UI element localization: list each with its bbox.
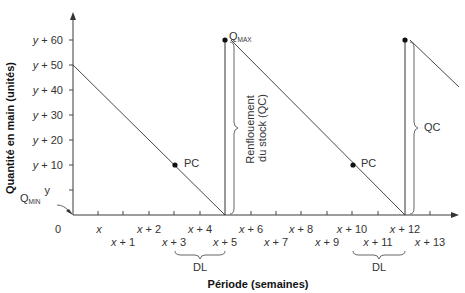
svg-text:y + 40: y + 40: [32, 84, 63, 96]
svg-text:0: 0: [55, 223, 61, 235]
y-axis-arrow-icon: [70, 12, 76, 20]
svg-text:x + 7: x + 7: [263, 236, 288, 248]
svg-text:x + 2: x + 2: [136, 223, 161, 235]
svg-text:y: y: [45, 184, 51, 196]
svg-text:x + 6: x + 6: [238, 223, 263, 235]
qmax-point-2: [402, 37, 407, 42]
svg-text:x + 1: x + 1: [110, 236, 135, 248]
qc-label: QC: [424, 121, 441, 133]
svg-text:y + 30: y + 30: [32, 109, 63, 121]
dl-brace-2: [353, 251, 405, 259]
svg-text:y + 20: y + 20: [32, 134, 63, 146]
pc-label-2: PC: [361, 157, 376, 169]
y-axis-title: Quantité en main (unités): [4, 62, 16, 194]
pc-point-1: [172, 162, 177, 167]
svg-text:x + 13: x + 13: [414, 236, 445, 248]
svg-text:x: x: [95, 223, 102, 235]
dl-label-1: DL: [193, 261, 207, 273]
svg-text:x + 10: x + 10: [336, 223, 367, 235]
qmax-label: QMAX: [229, 30, 252, 43]
svg-text:x + 12: x + 12: [389, 223, 420, 235]
replenish-label: Renflouement du stock (QC): [244, 92, 268, 164]
svg-text:x + 8: x + 8: [288, 223, 313, 235]
svg-text:x + 5: x + 5: [212, 236, 237, 248]
inventory-series-line: [73, 65, 225, 215]
qc-brace-2: [410, 42, 418, 214]
svg-text:y + 60: y + 60: [32, 34, 63, 46]
dl-brace-1: [175, 251, 225, 259]
qmin-label: QMIN: [20, 192, 41, 205]
x-ticks: [98, 211, 430, 215]
inventory-series-line-3: [410, 40, 459, 87]
dl-label-2: DL: [372, 261, 386, 273]
svg-text:x + 4: x + 4: [187, 223, 212, 235]
svg-text:y + 10: y + 10: [32, 159, 63, 171]
svg-text:y + 50: y + 50: [32, 59, 63, 71]
inventory-chart: y y + 10 y + 20 y + 30 y + 40 y + 50 y +…: [0, 0, 465, 293]
replenish-brace-1: [230, 42, 238, 214]
x-axis-title: Période (semaines): [208, 278, 309, 290]
qmin-arrowhead-icon: [66, 209, 73, 215]
svg-text:x + 9: x + 9: [314, 236, 339, 248]
x-tick-labels: 0 x x + 1 x + 2 x + 3 x + 4 x + 5 x + 6 …: [55, 223, 445, 248]
x-axis-arrow-icon: [451, 212, 459, 218]
qmax-point-1: [222, 37, 227, 42]
svg-text:x + 3: x + 3: [161, 236, 186, 248]
pc-label-1: PC: [184, 157, 199, 169]
y-tick-labels: y y + 10 y + 20 y + 30 y + 40 y + 50 y +…: [32, 34, 63, 196]
pc-point-2: [350, 162, 355, 167]
y-ticks: [69, 40, 73, 190]
svg-text:x + 11: x + 11: [362, 236, 392, 248]
